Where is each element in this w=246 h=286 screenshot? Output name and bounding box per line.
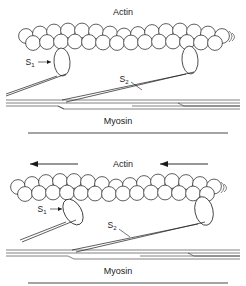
top-panel: Actin (6, 7, 240, 133)
s1-label-top: S1 (25, 57, 35, 68)
myosin-label-bottom: Myosin (104, 266, 133, 276)
motion-arrow-right (160, 161, 208, 167)
s1-head-left-top (53, 47, 71, 76)
bottom-panel: Actin (6, 159, 240, 283)
actin-label-bottom: Actin (113, 159, 133, 169)
actin-label-top: Actin (113, 7, 133, 17)
s1-label-bottom: S1 (37, 204, 47, 215)
s1-label-group-bottom: S1 (37, 204, 62, 215)
myosin-backbone-top (6, 100, 240, 109)
actin-myosin-diagram: Actin (0, 0, 246, 286)
s2-label-group-top: S2 (119, 74, 142, 90)
s2-label-top: S2 (119, 74, 129, 85)
s2-label-group-bottom: S2 (107, 220, 130, 237)
s1-label-group-top: S1 (25, 57, 51, 68)
myosin-backbone-bottom (6, 250, 240, 259)
actin-filament-top (19, 23, 235, 50)
actin-filament-bottom (11, 174, 227, 202)
myosin-label-top: Myosin (104, 116, 133, 126)
s2-label-bottom: S2 (107, 220, 117, 231)
s2-rods-top (6, 72, 194, 102)
s1-head-right-top (181, 45, 199, 74)
motion-arrow-left (30, 161, 78, 167)
